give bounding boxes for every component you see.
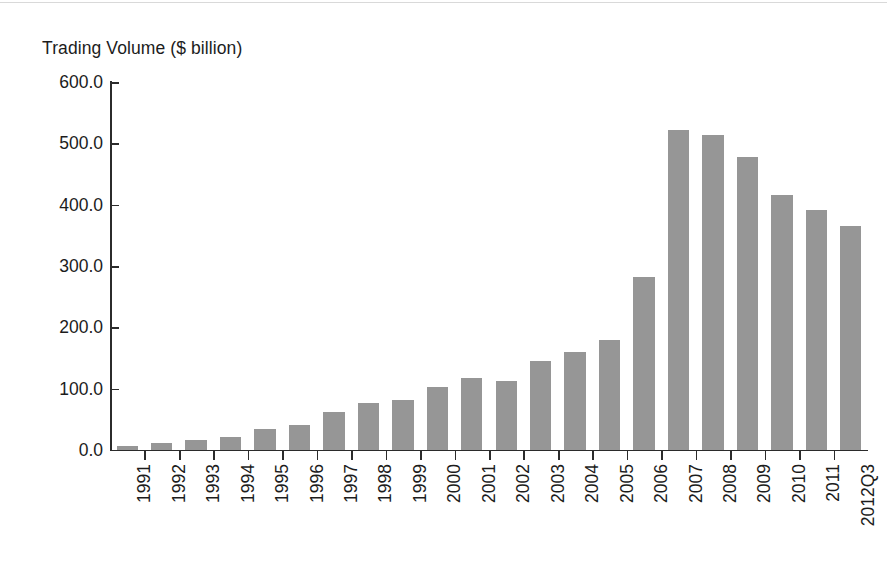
x-axis-tick-label: 2008: [720, 464, 741, 503]
x-axis-tick-label: 1992: [169, 464, 190, 503]
x-axis-tick-mark: [558, 451, 560, 460]
x-axis-tick-mark: [765, 451, 767, 460]
x-axis-tick-mark: [730, 451, 732, 460]
x-axis-tick-mark: [661, 451, 663, 460]
y-axis-tick-mark: [110, 82, 119, 84]
x-axis-tick-label: 1994: [238, 464, 259, 503]
x-axis-tick-mark: [696, 451, 698, 460]
x-axis-tick-mark: [144, 451, 146, 460]
x-axis-tick-label: 2001: [479, 464, 500, 503]
x-axis-tick-label: 1996: [307, 464, 328, 503]
x-axis-tick-mark: [213, 451, 215, 460]
y-axis-tick-mark: [110, 205, 119, 207]
x-axis-tick-mark: [248, 451, 250, 460]
x-axis-tick-label: 2004: [582, 464, 603, 503]
x-axis-tick-mark: [834, 451, 836, 460]
y-axis-tick-mark: [110, 143, 119, 145]
x-axis-tick-label: 2003: [548, 464, 569, 503]
x-axis-tick-mark: [351, 451, 353, 460]
x-axis-tick-mark: [523, 451, 525, 460]
y-axis-tick-mark: [110, 266, 119, 268]
x-axis-tick-mark: [592, 451, 594, 460]
x-axis-tick-label: 2006: [651, 464, 672, 503]
x-axis-tick-label: 2011: [823, 464, 844, 502]
x-axis-tick-mark: [420, 451, 422, 460]
x-axis-tick-mark: [489, 451, 491, 460]
x-axis-tick-mark: [317, 451, 319, 460]
x-axis-tick-labels: 1991199219931994199519961997199819992000…: [0, 0, 887, 567]
x-axis-tick-label: 2002: [513, 464, 534, 503]
x-axis-tick-mark: [455, 451, 457, 460]
x-axis-tick-label: 1995: [272, 464, 293, 503]
x-axis-tick-mark: [386, 451, 388, 460]
x-axis-tick-mark: [282, 451, 284, 460]
y-axis-tick-mark: [110, 327, 119, 329]
x-axis-tick-label: 2007: [686, 464, 707, 503]
x-axis-tick-label: 2009: [754, 464, 775, 503]
x-axis-tick-mark: [179, 451, 181, 460]
x-axis-tick-label: 2012Q3: [858, 464, 879, 526]
trading-volume-bar-chart: Trading Volume ($ billion) 600.0500.0400…: [0, 0, 887, 567]
x-axis-tick-label: 1993: [203, 464, 224, 503]
x-axis-tick-label: 1997: [341, 464, 362, 503]
x-axis-tick-mark: [799, 451, 801, 460]
x-axis-tick-label: 1991: [134, 464, 155, 503]
y-axis-tick-mark: [110, 389, 119, 391]
x-axis-tick-label: 2010: [789, 464, 810, 503]
x-axis-tick-label: 1999: [410, 464, 431, 503]
x-axis-tick-label: 1998: [375, 464, 396, 503]
x-axis-tick-label: 2005: [617, 464, 638, 503]
x-axis-tick-mark: [627, 451, 629, 460]
x-axis-tick-label: 2000: [444, 464, 465, 503]
